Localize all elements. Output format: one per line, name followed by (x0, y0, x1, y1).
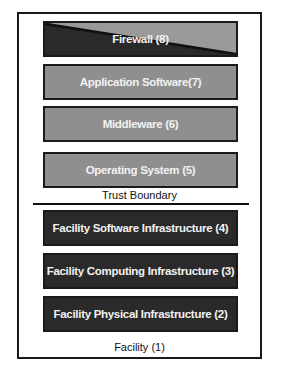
layer-label: Firewall (8) (112, 33, 168, 45)
layer-label: Facility Software Infrastructure (4) (53, 222, 229, 234)
layer-operating-system: Operating System (5) (43, 152, 238, 188)
layer-firewall: Firewall (8) (43, 21, 238, 57)
facility-label: Facility (1) (17, 341, 262, 353)
layer-label: Application Software(7) (80, 76, 202, 88)
layer-label: Operating System (5) (86, 164, 196, 176)
layer-middleware: Middleware (6) (43, 106, 238, 142)
trust-boundary-line (33, 203, 249, 205)
layer-facility-physical-infrastructure: Facility Physical Infrastructure (2) (43, 296, 238, 332)
layer-application-software: Application Software(7) (43, 64, 238, 100)
trust-boundary-label: Trust Boundary (17, 189, 262, 201)
layer-label: Middleware (6) (103, 118, 179, 130)
layer-label: Facility Computing Infrastructure (3) (47, 265, 235, 277)
layer-label: Facility Physical Infrastructure (2) (54, 308, 228, 320)
layer-facility-software-infrastructure: Facility Software Infrastructure (4) (43, 210, 238, 246)
layer-facility-computing-infrastructure: Facility Computing Infrastructure (3) (43, 253, 238, 289)
